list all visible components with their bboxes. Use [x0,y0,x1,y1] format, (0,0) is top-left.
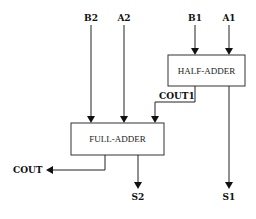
wire-cout [46,155,105,174]
output-label-s1: S1 [223,192,236,202]
output-label-s2: S2 [132,192,145,202]
input-label-a2: A2 [116,13,130,23]
arrow-down-icon [134,182,142,189]
wire-b2 [87,25,95,123]
wire-s2 [134,155,142,189]
full-adder-block: FULL-ADDER [71,123,164,155]
input-label-b2: B2 [84,13,98,23]
arrow-left-icon [46,166,53,174]
adder-diagram: B2 A2 B1 A1 HALF-ADDER S1 COUT1 FULL-ADD… [0,0,256,219]
arrow-down-icon [191,48,199,55]
wire-a2 [120,25,128,123]
wire-a1 [225,25,233,55]
full-adder-label: FULL-ADDER [89,134,146,144]
half-adder-block: HALF-ADDER [168,55,245,86]
arrow-down-icon [225,48,233,55]
arrow-down-icon [151,116,159,123]
half-adder-label: HALF-ADDER [178,66,236,76]
signal-label-cout1: COUT1 [159,91,195,101]
input-label-a1: A1 [221,13,235,23]
arrow-down-icon [225,182,233,189]
wire-s1 [225,86,233,189]
output-label-cout: COUT [13,165,43,175]
arrow-down-icon [87,116,95,123]
wire-b1 [191,25,199,55]
arrow-down-icon [120,116,128,123]
input-label-b1: B1 [188,13,202,23]
